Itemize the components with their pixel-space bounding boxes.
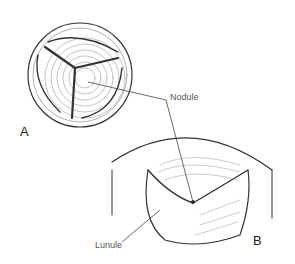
- illustration: [0, 0, 295, 264]
- callout-lines: [88, 82, 193, 242]
- panel-a-valve-top-view: [28, 23, 132, 127]
- valve-diagram: Nodule Lunule A B: [0, 0, 295, 264]
- nodule-label: Nodule: [170, 92, 199, 102]
- lunule-label: Lunule: [95, 240, 122, 250]
- panel-a-label: A: [20, 124, 29, 139]
- panel-b-label: B: [253, 233, 262, 248]
- panel-b-valve-cusp: [112, 138, 272, 244]
